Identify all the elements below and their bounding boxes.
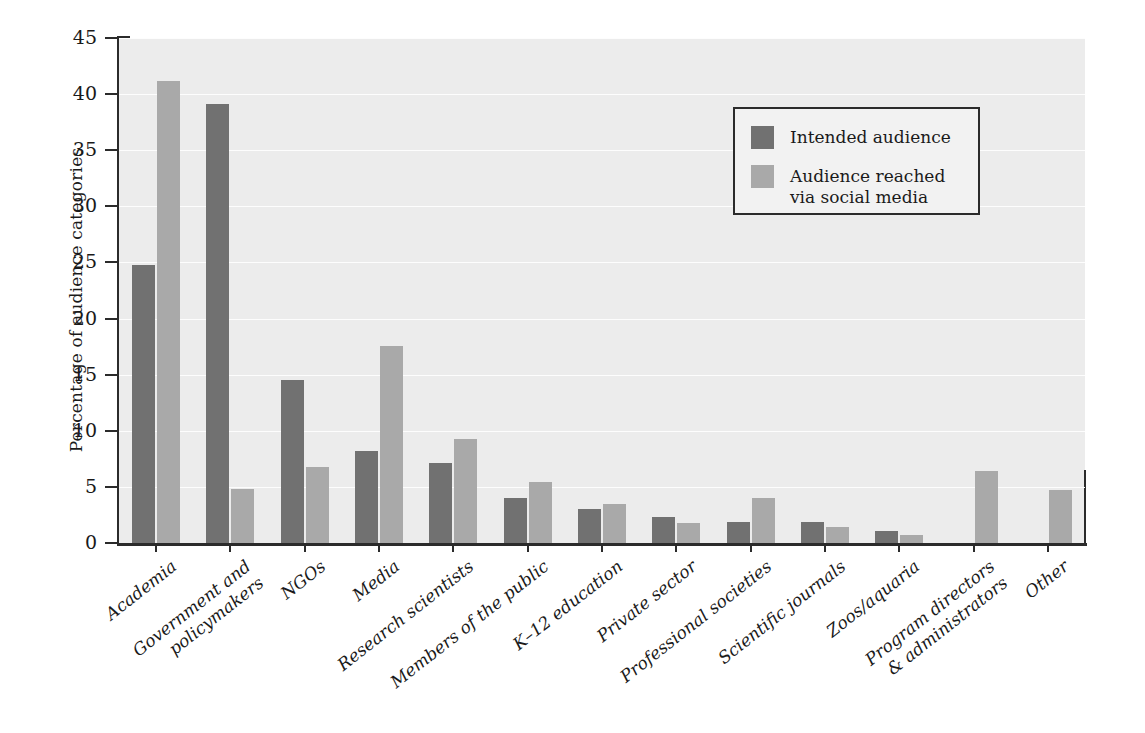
bar (157, 81, 180, 543)
bar (578, 509, 601, 543)
legend-swatch-audience-reached (751, 165, 774, 188)
legend-entry-audience-reached: Audience reached via social media (751, 165, 945, 208)
y-tick-label-0: 0 (37, 533, 97, 552)
legend-entry-intended-audience: Intended audience (751, 126, 951, 149)
x-tick-mark-5 (527, 546, 529, 552)
y-tick-label-5: 5 (37, 477, 97, 496)
x-tick-mark-1 (229, 546, 231, 552)
y-tick-mark-15 (105, 374, 118, 376)
legend-label-intended-audience: Intended audience (790, 127, 951, 148)
x-tick-mark-12 (1047, 546, 1049, 552)
bar (132, 265, 155, 543)
legend-label-audience-reached: Audience reached via social media (790, 166, 945, 208)
x-tick-mark-10 (898, 546, 900, 552)
bar (206, 104, 229, 543)
y-tick-mark-45 (105, 37, 118, 39)
x-tick-mark-11 (973, 546, 975, 552)
x-tick-mark-8 (750, 546, 752, 552)
y-tick-mark-0 (105, 542, 118, 544)
y-tick-mark-30 (105, 205, 118, 207)
y-tick-label-25: 25 (37, 252, 97, 271)
y-tick-label-30: 30 (37, 196, 97, 215)
y-tick-label-20: 20 (37, 309, 97, 328)
y-tick-mark-5 (105, 486, 118, 488)
bar (727, 522, 750, 543)
y-tick-mark-20 (105, 318, 118, 320)
bar (504, 498, 527, 543)
bar (603, 504, 626, 543)
bar (652, 517, 675, 543)
y-tick-mark-40 (105, 93, 118, 95)
legend-swatch-intended-audience (751, 126, 774, 149)
y-tick-mark-10 (105, 430, 118, 432)
x-tick-mark-7 (675, 546, 677, 552)
x-tick-mark-0 (155, 546, 157, 552)
x-tick-mark-4 (452, 546, 454, 552)
bar (454, 439, 477, 543)
x-tick-mark-3 (378, 546, 380, 552)
bar (529, 482, 552, 543)
y-tick-label-15: 15 (37, 365, 97, 384)
bar (380, 346, 403, 544)
y-tick-label-35: 35 (37, 140, 97, 159)
chart-legend: Intended audience Audience reached via s… (733, 107, 980, 215)
bar (900, 535, 923, 543)
bar (975, 471, 998, 543)
bar-chart-figure: Percentage of audience categories 051015… (0, 0, 1145, 733)
bar (231, 489, 254, 543)
y-tick-label-40: 40 (37, 84, 97, 103)
x-tick-mark-2 (304, 546, 306, 552)
y-tick-mark-25 (105, 261, 118, 263)
bar (281, 380, 304, 543)
y-tick-mark-35 (105, 149, 118, 151)
bar (1049, 490, 1072, 543)
y-tick-label-10: 10 (37, 421, 97, 440)
bar (801, 522, 824, 543)
bar (875, 531, 898, 543)
bar (355, 451, 378, 543)
bar (429, 463, 452, 543)
x-tick-mark-9 (824, 546, 826, 552)
bar (752, 498, 775, 543)
y-tick-label-45: 45 (37, 28, 97, 47)
bar (826, 527, 849, 543)
bar (306, 467, 329, 543)
bar (677, 523, 700, 543)
x-tick-mark-6 (601, 546, 603, 552)
